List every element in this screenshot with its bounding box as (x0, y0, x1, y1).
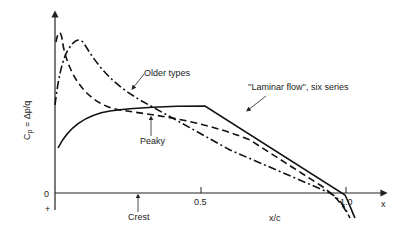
series-older-types (55, 40, 347, 212)
older-types-pointer (133, 74, 144, 88)
y-axis-label: Cp = Δp/q (22, 101, 34, 140)
x-axis-label: x/c (269, 213, 281, 223)
tick-10-label: 1.0 (340, 197, 353, 207)
tick-05-label: 0.5 (194, 197, 207, 207)
plus-label: + (45, 204, 50, 214)
x-end-label: x (381, 199, 386, 209)
pressure-distribution-chart: Cp = Δp/q 0 + 0.5 1.0 x x/c Older types … (0, 0, 401, 236)
older-types-label: Older types (144, 68, 191, 78)
laminar-pointer (248, 96, 266, 110)
zero-label: 0 (44, 189, 49, 199)
laminar-label: ''Laminar flow'', six series (248, 82, 349, 92)
peaky-label: Peaky (140, 136, 166, 146)
crest-label: Crest (128, 212, 150, 222)
series-peaky (56, 33, 350, 218)
